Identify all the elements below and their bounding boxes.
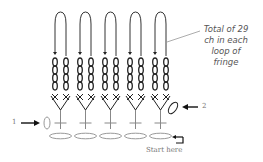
chain-stitch bbox=[139, 58, 144, 66]
chain-stitch bbox=[164, 58, 169, 66]
foundation-chain-stitch bbox=[125, 133, 147, 139]
foundation-chain-stitch bbox=[75, 133, 97, 139]
arrow-2-head-icon bbox=[182, 104, 188, 110]
chain-stitch bbox=[114, 58, 119, 66]
fringe-loop bbox=[55, 12, 66, 56]
chain-stitch bbox=[128, 58, 133, 66]
foundation-chain-stitch bbox=[100, 133, 122, 139]
fringe-loop bbox=[105, 12, 116, 56]
chain-stitch bbox=[64, 82, 69, 90]
chain-stitch bbox=[128, 82, 133, 90]
chain-stitches bbox=[53, 58, 169, 90]
chain-stitch bbox=[89, 58, 94, 66]
single-crochet bbox=[80, 110, 92, 129]
chain-stitch bbox=[153, 74, 158, 82]
chain-stitch bbox=[53, 82, 58, 90]
chain-stitch bbox=[103, 58, 108, 66]
single-crochet bbox=[105, 110, 117, 129]
turning-chain-1 bbox=[44, 117, 50, 129]
chain-stitch bbox=[78, 74, 83, 82]
start-here-icon bbox=[176, 137, 183, 143]
chain-stitch bbox=[53, 66, 58, 74]
chain-stitch bbox=[78, 58, 83, 66]
single-crochet bbox=[155, 110, 167, 129]
chain-stitch bbox=[64, 66, 69, 74]
crochet-fringe-diagram: Total of 29 ch in each loop of fringe 1 … bbox=[0, 0, 263, 162]
fringe-loop bbox=[155, 12, 166, 56]
chain-stitch bbox=[139, 82, 144, 90]
chain-stitch bbox=[164, 82, 169, 90]
fringe-loop bbox=[130, 12, 141, 56]
chain-stitch bbox=[89, 82, 94, 90]
annotation-text: Total of 29 ch in each loop of fringe bbox=[196, 24, 256, 68]
chain-stitch bbox=[89, 74, 94, 82]
chain-stitch bbox=[64, 74, 69, 82]
annotation-line-2: ch in each bbox=[196, 35, 256, 46]
chain-stitch bbox=[53, 58, 58, 66]
chain-stitch bbox=[153, 82, 158, 90]
single-crochet-row bbox=[55, 110, 167, 129]
annotation-line-3: loop of bbox=[196, 46, 256, 57]
fringe-loop bbox=[80, 12, 91, 56]
turning-chain-2 bbox=[166, 101, 179, 116]
foundation-chain bbox=[50, 133, 172, 139]
chain-stitch bbox=[114, 82, 119, 90]
foundation-chain-stitch bbox=[150, 133, 172, 139]
loop-arrow-icon bbox=[53, 52, 57, 55]
chain-stitch bbox=[128, 74, 133, 82]
chain-stitch bbox=[139, 66, 144, 74]
fringe-loops bbox=[53, 12, 166, 56]
loop-arrow-icon bbox=[103, 52, 107, 55]
chain-stitch bbox=[153, 66, 158, 74]
chain-stitch bbox=[53, 74, 58, 82]
marker-1-label: 1 bbox=[12, 118, 16, 126]
v-stitches bbox=[51, 94, 170, 110]
chain-stitch bbox=[128, 66, 133, 74]
marker-2-label: 2 bbox=[202, 102, 206, 110]
chain-stitch bbox=[114, 66, 119, 74]
chain-stitch bbox=[164, 74, 169, 82]
chain-stitch bbox=[78, 82, 83, 90]
single-crochet bbox=[55, 110, 67, 129]
start-here-label: Start here bbox=[146, 146, 182, 154]
annotation-line-4: fringe bbox=[196, 57, 256, 68]
chain-stitch bbox=[164, 66, 169, 74]
single-crochet bbox=[130, 110, 142, 129]
chain-stitch bbox=[78, 66, 83, 74]
chain-stitch bbox=[114, 74, 119, 82]
chain-stitch bbox=[103, 66, 108, 74]
chain-stitch bbox=[153, 58, 158, 66]
chain-stitch bbox=[103, 82, 108, 90]
loop-arrow-icon bbox=[128, 52, 132, 55]
annotation-line-1: Total of 29 bbox=[196, 24, 256, 35]
chain-stitch bbox=[139, 74, 144, 82]
chain-stitch bbox=[64, 58, 69, 66]
arrow-1-head-icon bbox=[34, 120, 40, 126]
chain-stitch bbox=[103, 74, 108, 82]
foundation-chain-stitch bbox=[50, 133, 72, 139]
loop-arrow-icon bbox=[78, 52, 82, 55]
chain-stitch bbox=[89, 66, 94, 74]
start-arrow-head-icon bbox=[172, 135, 176, 139]
loop-arrow-icon bbox=[153, 52, 157, 55]
